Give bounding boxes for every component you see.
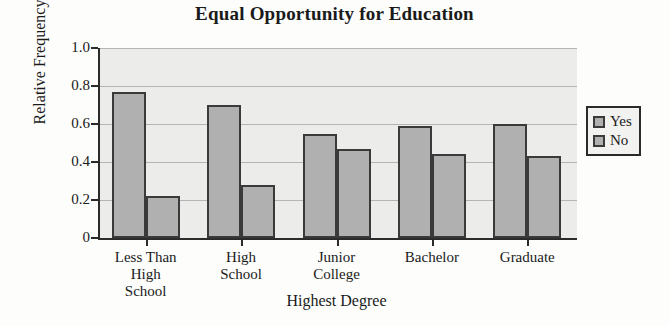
- plot-area: [98, 48, 577, 240]
- chart-figure: Equal Opportunity for Education Relative…: [0, 0, 669, 326]
- y-axis-tick-mark: [91, 237, 98, 239]
- legend-label: No: [610, 133, 628, 148]
- x-axis-tick-mark: [241, 240, 243, 246]
- bar-yes-3: [398, 126, 432, 238]
- legend-item-no[interactable]: No: [593, 131, 632, 150]
- legend-swatch-icon: [593, 135, 605, 147]
- legend-swatch-icon: [593, 116, 605, 128]
- x-axis-tick-mark: [146, 240, 148, 246]
- y-axis-tick-mark: [91, 123, 98, 125]
- y-axis-tick-label: 0.8: [44, 77, 90, 94]
- bar-no-3: [432, 154, 466, 238]
- chart-title: Equal Opportunity for Education: [0, 3, 669, 25]
- bar-no-4: [527, 156, 561, 238]
- x-axis-category-label: Graduate: [465, 249, 590, 266]
- legend-label: Yes: [610, 114, 632, 129]
- bar-no-2: [337, 149, 371, 238]
- y-axis-tick-mark: [91, 161, 98, 163]
- bar-no-1: [241, 185, 275, 238]
- legend-item-yes[interactable]: Yes: [593, 112, 632, 131]
- y-axis-tick-mark: [91, 47, 98, 49]
- x-axis-tick-mark: [337, 240, 339, 246]
- y-axis-tick-label: 0.6: [44, 115, 90, 132]
- x-axis-tick-mark: [432, 240, 434, 246]
- bar-yes-2: [303, 134, 337, 239]
- bar-no-0: [146, 196, 180, 238]
- y-axis-tick-label: 1.0: [44, 39, 90, 56]
- y-axis-tick-mark: [91, 199, 98, 201]
- plot-inner: [100, 48, 577, 238]
- y-axis-tick-label: 0.4: [44, 153, 90, 170]
- y-axis-tick-mark: [91, 85, 98, 87]
- gridline: [100, 48, 577, 49]
- y-axis-tick-label: 0.2: [44, 191, 90, 208]
- bar-yes-4: [493, 124, 527, 238]
- gridline: [100, 86, 577, 87]
- y-axis-tick-label: 0: [44, 229, 90, 246]
- bar-yes-1: [207, 105, 241, 238]
- x-axis-tick-mark: [527, 240, 529, 246]
- chart-legend: YesNo: [586, 106, 641, 156]
- bar-yes-0: [112, 92, 146, 238]
